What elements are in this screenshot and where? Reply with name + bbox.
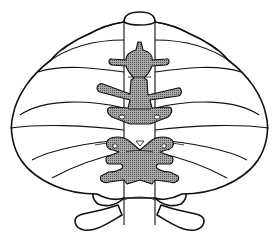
lower-shaded-region (100, 137, 178, 184)
top-knob (124, 12, 155, 25)
cerebellum-diagram (0, 0, 279, 243)
